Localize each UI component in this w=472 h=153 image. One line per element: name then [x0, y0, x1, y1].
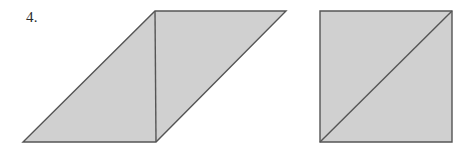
figure-canvas — [0, 0, 472, 153]
parallelogram-figure — [23, 11, 286, 142]
geometry-figure-panel: 4. — [0, 0, 472, 153]
parallelogram-vertical-divider-line — [155, 11, 156, 142]
square-figure — [320, 11, 452, 142]
